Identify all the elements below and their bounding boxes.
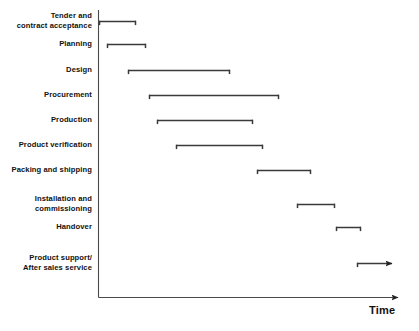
gantt-chart: Tender and contract acceptance Planning … (0, 0, 419, 331)
x-axis-title: Time (369, 304, 395, 316)
task-bar (176, 145, 263, 149)
chart-canvas (0, 0, 419, 331)
task-bar (357, 263, 392, 267)
plot-area: Time (0, 0, 419, 331)
task-bar (99, 21, 136, 25)
task-bar (297, 204, 335, 208)
task-bar (107, 44, 146, 48)
task-bars (99, 21, 392, 267)
task-bar (128, 70, 230, 74)
task-bar (157, 120, 253, 124)
task-bar (149, 95, 279, 99)
task-bar (257, 170, 311, 174)
task-bar (336, 227, 361, 231)
